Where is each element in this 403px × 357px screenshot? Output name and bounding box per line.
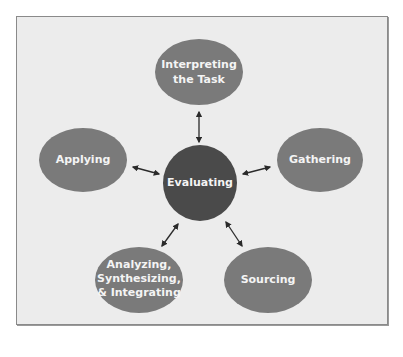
node-analyzing-line-1: Analyzing, <box>107 258 172 271</box>
node-analyzing-line-2: Synthesizing, <box>97 272 181 285</box>
node-analyzing-line-3: & Integrating <box>97 286 181 299</box>
node-analyzing: Analyzing, Synthesizing, & Integrating <box>95 247 183 313</box>
node-interpreting-line-2: the Task <box>173 73 225 86</box>
node-gathering: Gathering <box>277 128 363 192</box>
node-interpreting: Interpreting the Task <box>155 39 243 105</box>
node-evaluating-label: Evaluating <box>167 176 233 189</box>
node-applying-label: Applying <box>56 153 111 166</box>
arrow-evaluating-gathering <box>243 167 270 174</box>
arrow-evaluating-analyzing <box>162 224 178 246</box>
arrow-evaluating-sourcing <box>226 222 242 246</box>
node-interpreting-line-1: Interpreting <box>161 58 237 71</box>
node-sourcing-label: Sourcing <box>241 273 296 286</box>
node-gathering-label: Gathering <box>289 153 351 166</box>
node-evaluating-center: Evaluating <box>163 145 237 221</box>
node-sourcing: Sourcing <box>224 247 312 313</box>
arrow-evaluating-applying <box>133 167 159 174</box>
diagram-canvas: Interpreting the Task Applying Gathering… <box>0 0 403 357</box>
node-applying: Applying <box>39 128 127 192</box>
